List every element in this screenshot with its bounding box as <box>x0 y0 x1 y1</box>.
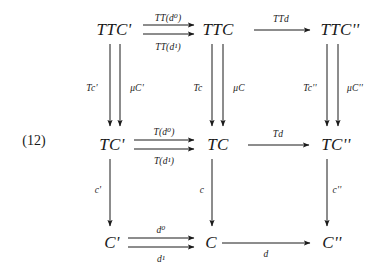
label-mu-c-prime: μC' <box>130 83 144 93</box>
label-c-prime: c' <box>95 185 102 195</box>
node-tc: TC <box>207 135 228 155</box>
label-d0: d⁰ <box>157 224 166 235</box>
figure-canvas: (12) TTC' TTC TTC'' TC' TC TC'' C' C C''… <box>0 0 384 272</box>
label-mu-c: μC <box>233 83 245 93</box>
node-tc-double-prime: TC'' <box>321 135 350 155</box>
label-d: d <box>264 249 269 259</box>
label-td: Td <box>273 129 283 139</box>
label-c: c <box>200 185 204 195</box>
label-t-d0: T(d⁰) <box>153 126 174 137</box>
label-t-d1: T(d¹) <box>154 156 174 166</box>
node-c-prime: C' <box>104 233 120 253</box>
node-c: C <box>205 233 217 253</box>
label-tc-prime: Tc' <box>86 83 97 93</box>
node-ttc: TTC <box>202 20 233 40</box>
label-tt-d0: TT(d⁰) <box>155 12 182 23</box>
label-tc: Tc <box>193 83 202 93</box>
label-c-double-prime: c'' <box>333 185 342 195</box>
label-d1: d¹ <box>157 254 165 264</box>
node-ttc-prime: TTC' <box>96 20 131 40</box>
label-tc-double-prime: Tc'' <box>303 83 317 93</box>
equation-number: (12) <box>22 133 45 149</box>
node-c-double-prime: C'' <box>322 233 342 253</box>
label-mu-c-double-prime: μC'' <box>347 83 363 93</box>
label-tt-d1: TT(d¹) <box>155 42 181 52</box>
node-tc-prime: TC' <box>99 135 124 155</box>
node-ttc-double-prime: TTC'' <box>320 20 359 40</box>
label-ttd: TTd <box>273 14 289 24</box>
